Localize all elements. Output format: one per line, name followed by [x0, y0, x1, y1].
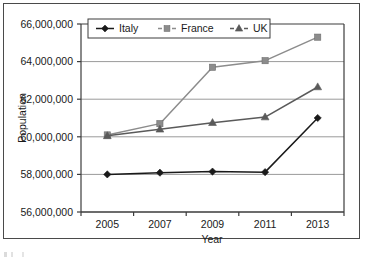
y-tick-label: 56,000,000	[20, 206, 73, 218]
scan-artifact	[4, 252, 28, 257]
y-tick-label: 64,000,000	[20, 55, 73, 67]
legend-label-italy: Italy	[119, 22, 139, 34]
data-point-marker	[209, 64, 215, 70]
y-tick-label: 62,000,000	[20, 93, 73, 105]
x-tick-label: 2005	[96, 218, 120, 230]
x-tick-label: 2009	[201, 218, 225, 230]
data-point-marker	[262, 58, 268, 64]
legend-label-uk: UK	[253, 22, 268, 34]
x-tick-label: 2011	[254, 218, 277, 230]
y-axis-title: Population	[16, 93, 28, 143]
legend-label-france: France	[181, 22, 214, 34]
chart-figure: 66,000,00064,000,00062,000,00060,000,000…	[0, 0, 366, 264]
y-axis-ticks: 66,000,00064,000,00062,000,00060,000,000…	[20, 18, 81, 218]
x-tick-label: 2007	[148, 218, 172, 230]
legend-marker-france	[164, 26, 170, 32]
y-tick-label: 60,000,000	[20, 131, 73, 143]
x-axis-ticks: 20052007200920112013	[81, 212, 344, 230]
chart-legend: ItalyFranceUK	[88, 19, 270, 38]
line-chart: 66,000,00064,000,00062,000,00060,000,000…	[0, 0, 366, 264]
x-axis-title: Year	[201, 233, 223, 245]
x-tick-label: 2013	[306, 218, 330, 230]
y-tick-label: 58,000,000	[20, 168, 73, 180]
legend-box	[88, 19, 270, 38]
data-point-marker	[315, 34, 321, 40]
y-tick-label: 66,000,000	[20, 18, 73, 30]
